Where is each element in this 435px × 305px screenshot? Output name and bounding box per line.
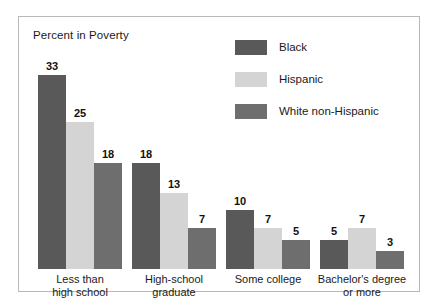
category-label: High-schoolgraduate xyxy=(127,273,221,299)
bar-item: 5 xyxy=(282,47,310,269)
bar xyxy=(348,228,376,269)
bar xyxy=(94,163,122,269)
bar-group: 1075 xyxy=(221,47,315,269)
bar-item: 7 xyxy=(348,47,376,269)
bar-item: 25 xyxy=(66,47,94,269)
category-label-line: Less than xyxy=(35,273,125,286)
bar-value-label: 5 xyxy=(293,226,299,237)
bar-item: 33 xyxy=(38,47,66,269)
chart-frame: Percent in Poverty BlackHispanicWhite no… xyxy=(18,16,420,292)
bar-group: 332518 xyxy=(33,47,127,269)
bar xyxy=(66,122,94,269)
bars: 1075 xyxy=(226,47,310,269)
bar-value-label: 18 xyxy=(140,149,152,160)
category-label-line: or more xyxy=(317,286,407,299)
bar-item: 18 xyxy=(132,47,160,269)
bar-item: 18 xyxy=(94,47,122,269)
bars: 573 xyxy=(320,47,404,269)
bar-item: 13 xyxy=(160,47,188,269)
bar-value-label: 7 xyxy=(359,214,365,225)
bar xyxy=(254,228,282,269)
category-label: Bachelor's degreeor more xyxy=(315,273,409,299)
bar-value-label: 3 xyxy=(387,237,393,248)
bar-group: 18137 xyxy=(127,47,221,269)
bar xyxy=(282,240,310,269)
bar-value-label: 18 xyxy=(102,149,114,160)
bar-value-label: 7 xyxy=(265,214,271,225)
bar-item: 10 xyxy=(226,47,254,269)
category-label-line: Some college xyxy=(223,273,313,286)
bar-groups: 332518181371075573 xyxy=(33,47,409,269)
bar-value-label: 33 xyxy=(46,61,58,72)
bar-item: 5 xyxy=(320,47,348,269)
bar xyxy=(38,75,66,269)
bars: 18137 xyxy=(132,47,216,269)
bar-value-label: 7 xyxy=(199,214,205,225)
category-label-line: Bachelor's degree xyxy=(317,273,407,286)
plot-area: 332518181371075573 Less thanhigh schoolH… xyxy=(33,47,409,283)
category-label-line: High-school xyxy=(129,273,219,286)
bar xyxy=(226,210,254,269)
bar-item: 7 xyxy=(188,47,216,269)
category-label: Some college xyxy=(221,273,315,299)
bars: 332518 xyxy=(38,47,122,269)
category-label-line: high school xyxy=(35,286,125,299)
bar xyxy=(188,228,216,269)
bar-value-label: 10 xyxy=(234,196,246,207)
bar-item: 3 xyxy=(376,47,404,269)
chart-title: Percent in Poverty xyxy=(33,29,129,41)
bar xyxy=(160,193,188,270)
bar-value-label: 5 xyxy=(331,226,337,237)
category-axis-labels: Less thanhigh schoolHigh-schoolgraduateS… xyxy=(33,273,409,299)
bar-item: 7 xyxy=(254,47,282,269)
bar xyxy=(320,240,348,269)
category-label-line: graduate xyxy=(129,286,219,299)
bar xyxy=(376,251,404,269)
category-label: Less thanhigh school xyxy=(33,273,127,299)
bar-value-label: 13 xyxy=(168,179,180,190)
bar xyxy=(132,163,160,269)
bar-group: 573 xyxy=(315,47,409,269)
bar-value-label: 25 xyxy=(74,108,86,119)
